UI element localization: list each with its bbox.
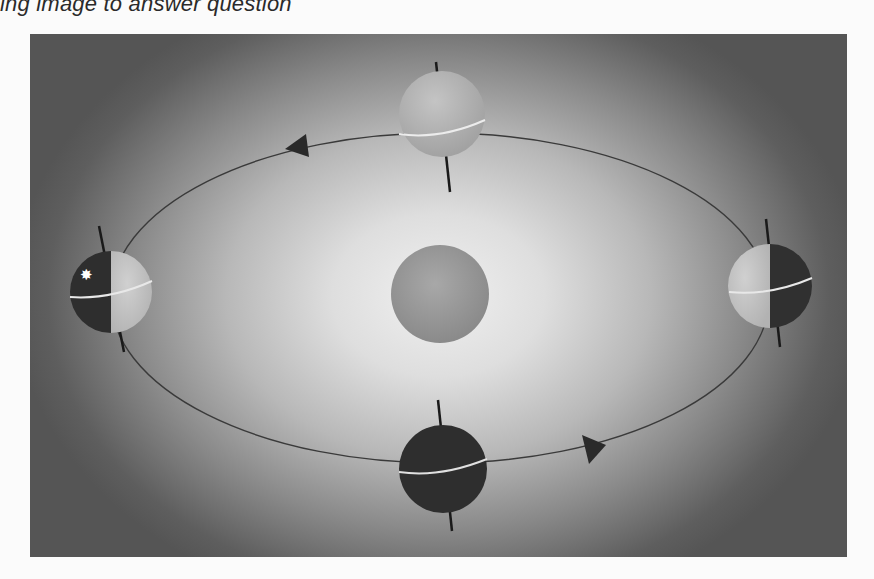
earth-top: [399, 62, 485, 192]
location-marker-icon: ✸: [80, 266, 93, 284]
earth-left: ✸: [70, 226, 152, 352]
sun: [391, 245, 489, 343]
earth-bottom: [399, 400, 487, 531]
orbit-direction-arrow-icon: [582, 435, 606, 464]
orbit-direction-arrow-icon: [285, 134, 309, 157]
earth-right: [728, 219, 812, 347]
orbit-diagram: ✸: [0, 0, 874, 579]
